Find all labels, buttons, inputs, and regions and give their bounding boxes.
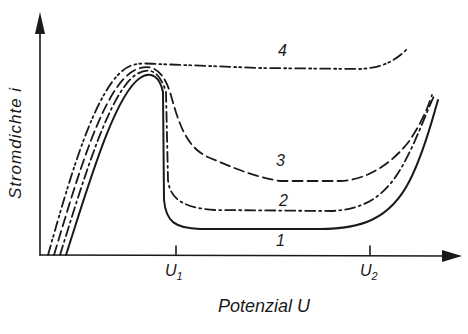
x-axis-label: Potenzial U bbox=[218, 296, 310, 317]
curve-1 bbox=[66, 75, 438, 255]
curve-1-label: 1 bbox=[276, 232, 285, 250]
curve-4-label: 4 bbox=[278, 42, 287, 60]
curve-4 bbox=[48, 48, 408, 255]
curve-3 bbox=[54, 67, 432, 255]
curve-2 bbox=[60, 71, 434, 255]
y-axis-arrow-icon bbox=[35, 12, 45, 34]
u2-text: U bbox=[360, 262, 372, 279]
diagram-canvas bbox=[0, 0, 468, 334]
u1-subscript: 1 bbox=[177, 270, 183, 282]
u1-text: U bbox=[165, 262, 177, 279]
curve-2-label: 2 bbox=[279, 192, 288, 210]
x-axis-arrow-icon bbox=[442, 250, 462, 262]
u2-subscript: 2 bbox=[372, 270, 378, 282]
y-axis-label: Stromdichte i bbox=[6, 58, 26, 228]
u1-label: U1 bbox=[165, 262, 183, 282]
curve-3-label: 3 bbox=[276, 152, 285, 170]
u2-label: U2 bbox=[360, 262, 378, 282]
x-axis bbox=[40, 255, 450, 256]
